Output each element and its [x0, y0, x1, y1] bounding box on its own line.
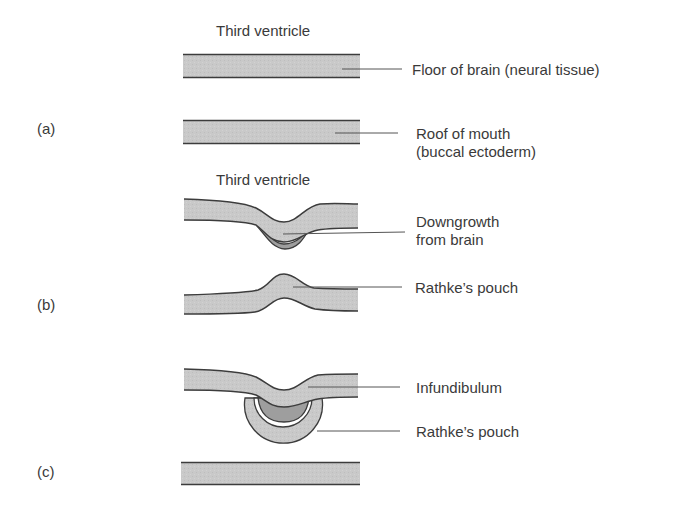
label-infundibulum: Infundibulum — [416, 379, 502, 397]
label-downgrowth-line2: from brain — [416, 231, 499, 249]
panel-b-rathkes-pouch — [184, 274, 358, 314]
label-roof-of-mouth-line2: (buccal ectoderm) — [416, 143, 536, 161]
panel-label-c: (c) — [37, 463, 55, 480]
label-rathkes-pouch-c: Rathke’s pouch — [416, 423, 519, 441]
caption-third-ventricle-a: Third ventricle — [216, 22, 310, 40]
panel-label-a: (a) — [37, 120, 55, 137]
label-roof-of-mouth: Roof of mouth (buccal ectoderm) — [416, 125, 536, 161]
label-downgrowth-line1: Downgrowth — [416, 213, 499, 231]
label-downgrowth: Downgrowth from brain — [416, 213, 499, 249]
label-rathkes-pouch-b: Rathke’s pouch — [415, 279, 518, 297]
panel-b-downgrowth-from-brain — [184, 199, 358, 249]
panel-c-roof-of-mouth — [181, 462, 360, 485]
panel-a-floor-of-brain — [183, 54, 360, 78]
panel-c-infundibulum — [184, 369, 358, 407]
panel-a-roof-of-mouth — [183, 120, 360, 144]
caption-third-ventricle-b: Third ventricle — [216, 171, 310, 189]
panel-label-b: (b) — [37, 296, 55, 313]
label-floor-of-brain: Floor of brain (neural tissue) — [412, 61, 600, 79]
label-roof-of-mouth-line1: Roof of mouth — [416, 125, 536, 143]
